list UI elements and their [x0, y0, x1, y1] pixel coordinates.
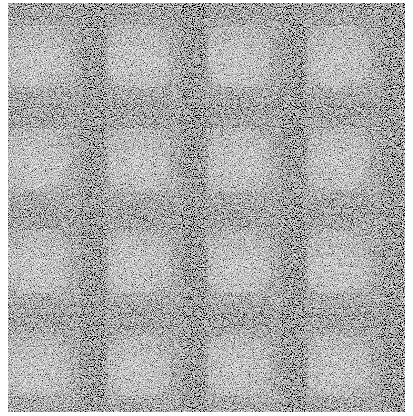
texture-svg [8, 3, 405, 412]
tiled-pattern [8, 3, 405, 412]
noise-texture [8, 3, 405, 412]
